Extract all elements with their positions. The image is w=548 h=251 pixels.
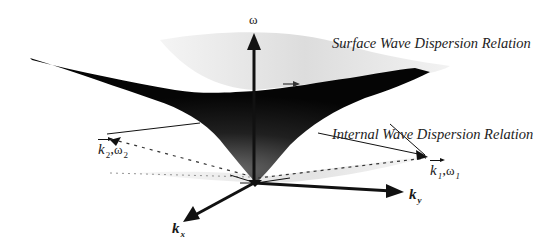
omega2-symbol: ω	[114, 142, 123, 157]
ky-axis-label: ky	[409, 186, 422, 205]
k2-vector-line	[107, 123, 200, 134]
kx-symbol: k	[172, 220, 180, 236]
ky-axis	[254, 183, 392, 191]
k2-vector-symbol: k	[98, 141, 105, 158]
ky-arrowhead-icon	[386, 184, 404, 198]
omega1-subscript: 1	[455, 171, 460, 181]
omega1-symbol: ω	[446, 163, 455, 178]
omega2-subscript: 2	[123, 150, 128, 160]
kx-subscript: x	[181, 229, 186, 239]
internal-wave-caption: Internal Wave Dispersion Relation	[332, 126, 533, 143]
kx-axis	[195, 183, 254, 215]
k1-vector-symbol: k	[430, 162, 437, 179]
kx-axis-label: kx	[172, 220, 185, 239]
ky-symbol: k	[409, 186, 417, 202]
wave2-label: k2,ω2	[98, 141, 128, 160]
surface-wave-caption: Surface Wave Dispersion Relation	[332, 35, 531, 52]
k1-arrowhead-icon	[416, 150, 428, 160]
wave1-label: k1,ω1	[430, 162, 460, 181]
internal-wave-sheet	[135, 156, 430, 183]
ky-subscript: y	[418, 195, 422, 205]
omega-axis-label: ω	[249, 12, 258, 28]
